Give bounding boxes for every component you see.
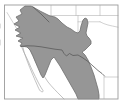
range-map-canvas <box>0 0 127 105</box>
shaded-range <box>14 6 99 99</box>
range-map <box>0 0 127 105</box>
